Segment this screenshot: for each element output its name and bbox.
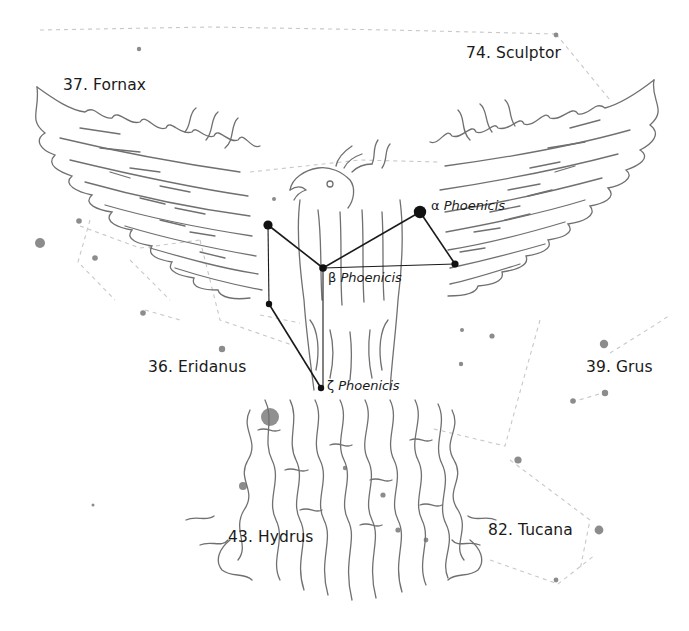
label-zeta-phoenicis: ζ Phoenicis — [327, 378, 400, 393]
constellation-artwork — [0, 0, 689, 631]
label-fornax: 37. Fornax — [63, 76, 146, 94]
star-alpha — [414, 206, 426, 218]
star-beta — [319, 264, 327, 272]
label-alpha-phoenicis: α Phoenicis — [431, 198, 505, 213]
label-hydrus: 43. Hydrus — [228, 528, 314, 546]
label-eridanus: 36. Eridanus — [148, 358, 246, 376]
star-name: Phoenicis — [444, 198, 505, 213]
constellation-boundaries — [40, 27, 670, 584]
label-tucana: 82. Tucana — [488, 521, 573, 539]
main-stars — [263, 206, 458, 391]
star-left-lower — [266, 301, 272, 307]
star-right-wing — [451, 260, 458, 267]
greek-letter: α — [431, 198, 440, 213]
greek-letter: β — [328, 270, 336, 285]
greek-letter: ζ — [327, 378, 334, 393]
constellation-stick-figure — [268, 212, 455, 388]
star-left-wing — [263, 220, 272, 229]
phoenix-constellation-figure: 37. Fornax 74. Sculptor 36. Eridanus 39.… — [0, 0, 689, 631]
star-name: Phoenicis — [340, 270, 401, 285]
background-stars — [35, 33, 608, 583]
star-zeta — [318, 385, 324, 391]
label-grus: 39. Grus — [586, 358, 653, 376]
star-name: Phoenicis — [338, 378, 399, 393]
label-sculptor: 74. Sculptor — [466, 44, 561, 62]
label-beta-phoenicis: β Phoenicis — [328, 270, 402, 285]
